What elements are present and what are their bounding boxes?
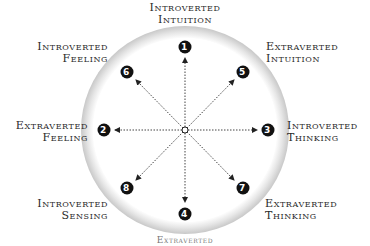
label-extraverted-intuition: Extraverted Intuition [266,41,338,65]
label-extraverted-sensing: Extraverted [135,234,235,246]
badge-4: 4 [181,208,188,220]
badge-1: 1 [181,41,188,53]
label-introverted-thinking: Introverted Thinking [287,120,358,144]
badge-3: 3 [264,124,271,136]
label-extraverted-feeling: Extraverted Feeling [6,120,88,144]
badge-7: 7 [239,182,246,194]
label-extraverted-thinking: Extraverted Thinking [265,198,337,222]
badge-8: 8 [123,182,130,194]
label-introverted-intuition: Introverted Intuition [135,2,235,26]
label-introverted-sensing: Introverted Sensing [22,198,108,222]
badge-2: 2 [100,124,107,136]
center-marker [182,127,188,133]
badge-5: 5 [239,66,246,78]
label-introverted-feeling: Introverted Feeling [22,41,108,65]
badge-6: 6 [123,66,130,78]
